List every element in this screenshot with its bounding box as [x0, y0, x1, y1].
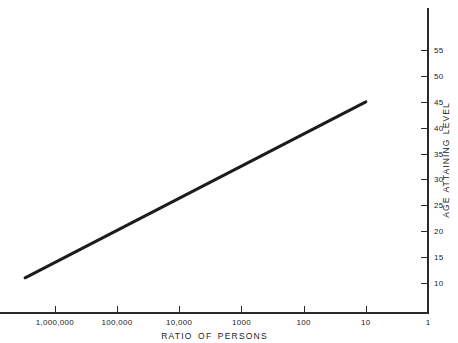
y-axis-title: AGE ATTAINING LEVEL: [441, 102, 451, 218]
x-tick-label: 100: [296, 318, 310, 327]
x-tick-label: 1,000,000: [36, 318, 74, 327]
x-axis-line: [0, 312, 429, 314]
x-tick-label: 1000: [232, 318, 251, 327]
y-tick-label: 50: [434, 71, 444, 80]
y-tick-mark: [421, 128, 427, 129]
x-tick-mark: [241, 306, 242, 312]
data-line: [25, 102, 366, 278]
y-tick-mark: [421, 231, 427, 232]
y-tick-mark: [421, 76, 427, 77]
y-tick-label: 10: [434, 279, 444, 288]
y-tick-label: 15: [434, 253, 444, 262]
plot-area: [0, 0, 458, 343]
y-tick-label: 55: [434, 46, 444, 55]
x-tick-label: 10,000: [166, 318, 192, 327]
y-tick-mark: [421, 205, 427, 206]
x-tick-mark: [304, 306, 305, 312]
data-series-group: [25, 102, 366, 278]
x-tick-label: 100,000: [101, 318, 132, 327]
x-tick-mark: [428, 306, 429, 312]
y-tick-mark: [421, 154, 427, 155]
y-tick-mark: [421, 102, 427, 103]
x-tick-label: 1: [426, 318, 431, 327]
x-tick-label: 10: [361, 318, 371, 327]
x-tick-mark: [179, 306, 180, 312]
y-axis-line: [427, 8, 429, 314]
x-tick-mark: [117, 306, 118, 312]
x-axis-title: RATIO OF PERSONS: [0, 331, 429, 341]
chart-container: 1,000,000100,00010,0001000100101 5550454…: [0, 0, 458, 343]
y-tick-mark: [421, 257, 427, 258]
x-tick-mark: [366, 306, 367, 312]
y-tick-mark: [421, 179, 427, 180]
y-tick-mark: [421, 283, 427, 284]
y-tick-label: 20: [434, 227, 444, 236]
x-tick-mark: [55, 306, 56, 312]
y-tick-mark: [421, 50, 427, 51]
